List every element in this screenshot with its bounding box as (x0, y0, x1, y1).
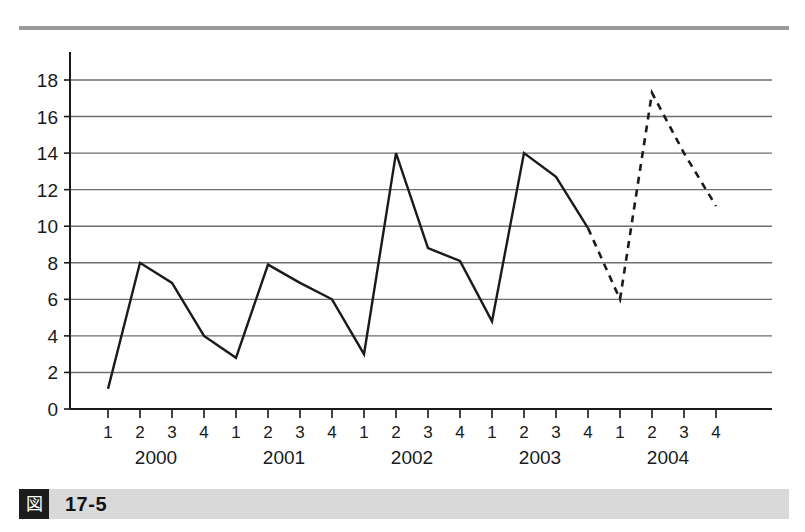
y-tick-label: 6 (47, 289, 58, 310)
x-quarter-label: 3 (551, 423, 560, 442)
x-tick-marks (108, 409, 716, 418)
x-quarter-label: 1 (359, 423, 368, 442)
series-line-forecast (588, 93, 716, 299)
x-year-label: 2002 (391, 447, 433, 468)
x-quarter-label: 3 (295, 423, 304, 442)
x-quarter-label: 4 (583, 423, 592, 442)
x-quarter-label: 4 (327, 423, 336, 442)
x-quarter-label: 2 (391, 423, 400, 442)
figure-number: 17-5 (65, 493, 107, 516)
x-quarter-label: 4 (455, 423, 464, 442)
y-tick-labels: 024681012141618 (37, 70, 70, 420)
x-quarter-label: 2 (647, 423, 656, 442)
top-divider-rule (19, 26, 789, 30)
x-quarter-label: 2 (519, 423, 528, 442)
x-quarter-label: 1 (231, 423, 240, 442)
x-year-label: 2001 (263, 447, 305, 468)
series-line-actual (108, 153, 588, 389)
x-quarter-label: 1 (103, 423, 112, 442)
line-chart: 024681012141618 12341234123412341234 200… (0, 40, 805, 480)
x-quarter-label: 2 (135, 423, 144, 442)
data-series (108, 93, 716, 389)
chart-area: 024681012141618 12341234123412341234 200… (0, 40, 805, 480)
figure-badge-icon: 図 (19, 489, 49, 519)
x-year-labels: 20002001200220032004 (135, 447, 690, 468)
y-tick-label: 14 (37, 143, 59, 164)
y-tick-label: 12 (37, 180, 58, 201)
x-quarter-label: 1 (615, 423, 624, 442)
x-year-label: 2000 (135, 447, 177, 468)
x-quarter-label: 3 (423, 423, 432, 442)
y-tick-label: 2 (47, 362, 58, 383)
x-year-label: 2004 (647, 447, 690, 468)
y-tick-label: 8 (47, 253, 58, 274)
x-quarter-label: 4 (711, 423, 720, 442)
x-quarter-label: 4 (199, 423, 208, 442)
x-quarter-label: 3 (679, 423, 688, 442)
y-tick-label: 4 (47, 326, 58, 347)
y-tick-label: 0 (47, 399, 58, 420)
x-quarter-label: 2 (263, 423, 272, 442)
figure-caption: 図 17-5 (19, 489, 789, 519)
x-year-label: 2003 (519, 447, 561, 468)
x-quarter-labels: 12341234123412341234 (103, 423, 720, 442)
y-tick-label: 10 (37, 216, 58, 237)
y-tick-label: 16 (37, 107, 58, 128)
x-quarter-label: 1 (487, 423, 496, 442)
y-tick-label: 18 (37, 70, 58, 91)
figure-container: 024681012141618 12341234123412341234 200… (0, 0, 805, 532)
x-quarter-label: 3 (167, 423, 176, 442)
